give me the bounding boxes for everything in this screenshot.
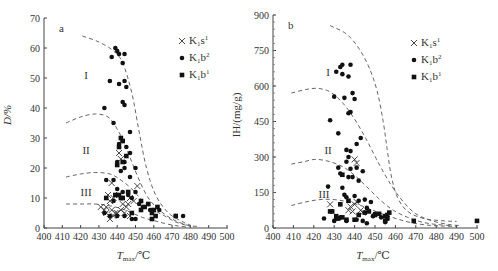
data-point — [104, 196, 109, 201]
y-tick-label: 300 — [254, 152, 269, 163]
data-point — [119, 169, 124, 174]
zone-label: III — [81, 186, 92, 198]
data-point — [122, 214, 127, 219]
data-point — [104, 178, 109, 183]
data-point — [383, 219, 388, 224]
y-tick-label: 10 — [30, 193, 40, 204]
data-point — [346, 175, 351, 180]
data-point — [332, 94, 337, 99]
data-point — [122, 166, 127, 171]
panel-b-hydrocarbon-index-chart: 4004104204304404504604704804905000150300… — [230, 10, 485, 264]
y-tick-label: 0 — [35, 223, 40, 234]
x-tick-label: 470 — [408, 231, 423, 242]
y-tick-label: 60 — [30, 43, 40, 54]
data-point — [322, 216, 327, 221]
data-point — [122, 52, 127, 57]
data-point — [173, 214, 178, 219]
data-point — [348, 149, 353, 154]
data-point — [352, 217, 357, 222]
data-point — [115, 187, 120, 192]
data-point — [102, 106, 107, 111]
data-point — [338, 65, 343, 70]
x-tick-label: 440 — [110, 231, 125, 242]
data-point — [348, 167, 353, 172]
data-point — [344, 217, 349, 222]
legend-marker-square-icon — [180, 73, 185, 78]
zone-label: I — [326, 66, 330, 78]
figure: 4004104204304404504604704804905000102030… — [0, 0, 498, 271]
data-point — [340, 215, 345, 220]
data-point — [356, 198, 361, 203]
panel-label: a — [59, 22, 64, 34]
data-point — [103, 204, 109, 210]
y-tick-label: 0 — [264, 223, 269, 234]
data-point — [346, 155, 351, 160]
data-point — [120, 139, 125, 144]
zone-boundary-curve — [82, 36, 190, 225]
x-tick-label: 440 — [347, 231, 362, 242]
data-point — [115, 214, 120, 219]
data-point — [336, 216, 341, 221]
legend: K1s1K1b2K1b1 — [179, 34, 210, 82]
legend-marker-circle-icon — [412, 58, 417, 63]
x-tick-label: 450 — [128, 231, 143, 242]
data-point — [146, 202, 151, 207]
data-point — [350, 91, 355, 96]
zone-label: II — [324, 144, 332, 156]
legend-marker-x-icon — [179, 38, 185, 44]
y-tick-label: 50 — [30, 73, 40, 84]
data-point — [117, 82, 122, 87]
data-point — [411, 219, 416, 224]
data-point — [150, 217, 155, 222]
series-x — [327, 156, 366, 215]
data-point — [354, 165, 359, 170]
data-point — [120, 61, 125, 66]
data-point — [346, 198, 351, 203]
x-tick-label: 460 — [146, 231, 161, 242]
zone-label: II — [82, 144, 90, 156]
legend-entry: K1b1 — [421, 70, 442, 84]
y-tick-label: 20 — [30, 163, 40, 174]
data-point — [124, 85, 129, 90]
zone-label: I — [84, 69, 88, 81]
legend-entry: K1b1 — [189, 68, 210, 82]
x-tick-label: 490 — [201, 231, 216, 242]
x-tick-label: 460 — [388, 231, 403, 242]
data-point — [120, 160, 125, 165]
y-axis-label: IH/(mg/g) — [230, 92, 243, 137]
data-point — [327, 201, 333, 207]
x-tick-label: 470 — [165, 231, 180, 242]
data-point — [340, 185, 345, 190]
x-tick-label: 430 — [327, 231, 342, 242]
data-point — [128, 130, 133, 135]
zone-label: III — [319, 188, 330, 200]
x-axis-label: Tmax/℃ — [356, 249, 390, 263]
data-point — [117, 145, 122, 150]
data-point — [338, 202, 343, 207]
data-point — [139, 208, 144, 213]
data-point — [352, 97, 357, 102]
x-tick-label: 420 — [306, 231, 321, 242]
data-point — [109, 207, 115, 213]
data-point — [133, 217, 138, 222]
legend-marker-square-icon — [412, 75, 417, 80]
x-tick-label: 430 — [91, 231, 106, 242]
data-point — [354, 142, 359, 147]
legend-entry: K1s1 — [421, 36, 441, 50]
y-tick-label: 900 — [254, 10, 269, 21]
data-point — [330, 209, 335, 214]
data-point — [336, 131, 341, 136]
data-point — [344, 159, 349, 164]
legend-entry: K1s1 — [189, 34, 209, 48]
data-point — [130, 196, 135, 201]
data-point — [124, 154, 129, 159]
data-point — [130, 211, 135, 216]
data-point — [360, 169, 365, 174]
x-tick-label: 410 — [55, 231, 70, 242]
data-point — [128, 175, 133, 180]
data-point — [367, 209, 372, 214]
data-point — [98, 204, 104, 210]
data-point — [328, 118, 333, 123]
data-point — [102, 211, 107, 216]
zone-boundary-curve — [291, 88, 460, 225]
